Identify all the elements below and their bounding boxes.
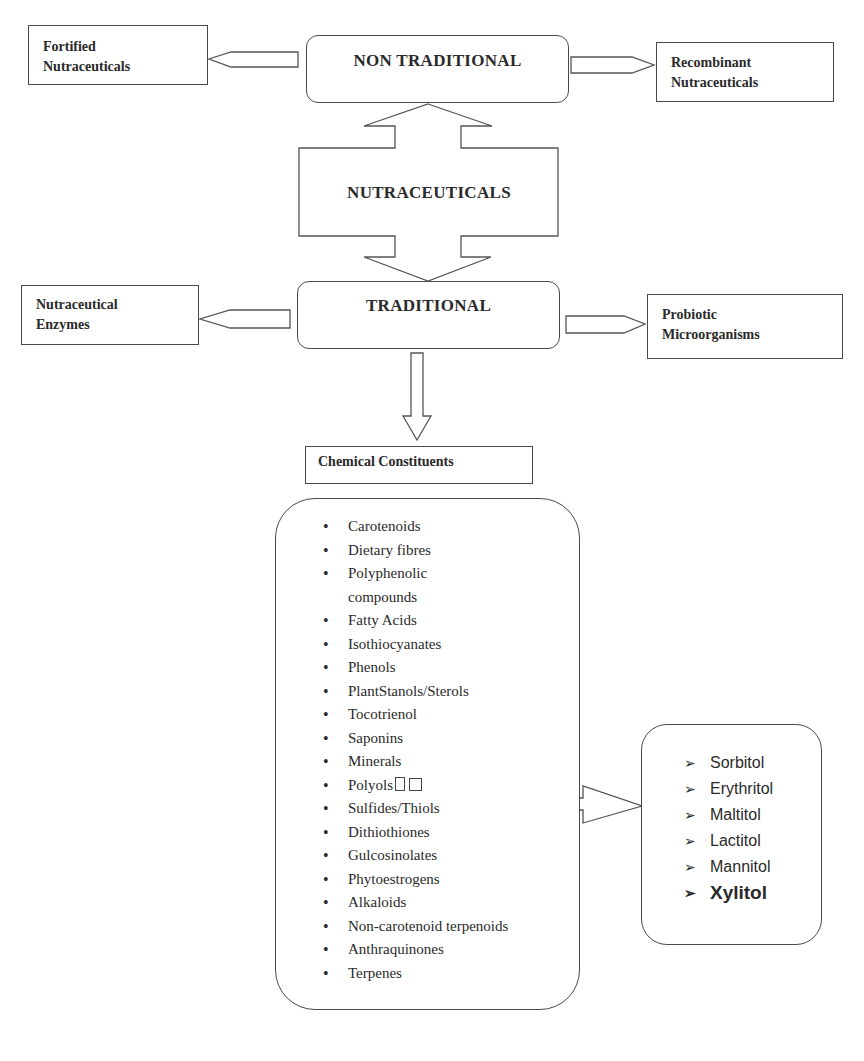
enzymes-line2: Enzymes	[36, 315, 198, 335]
nutraceutical-enzymes-box: Nutraceutical Enzymes	[21, 285, 199, 345]
nutraceuticals-label: NUTRACEUTICALS	[300, 183, 558, 203]
polyol-item: Maltitol	[680, 802, 820, 828]
polyol-item: Sorbitol	[680, 750, 820, 776]
probiotic-line1: Probiotic	[662, 305, 842, 325]
fortified-nutraceuticals-box: Fortified Nutraceuticals	[28, 25, 208, 85]
list-item: Tocotrienol	[316, 703, 586, 727]
chemical-constituents-title: Chemical Constituents	[306, 447, 532, 470]
placeholder-box-icon	[409, 778, 422, 791]
list-item: Isothiocyanates	[316, 633, 586, 657]
polyols-list: Sorbitol Erythritol Maltitol Lactitol Ma…	[680, 750, 820, 906]
traditional-label: TRADITIONAL	[298, 282, 559, 316]
arrow-to-fortified	[209, 52, 298, 67]
probiotic-line2: Microorganisms	[662, 325, 842, 345]
list-item: Fatty Acids	[316, 609, 586, 633]
fortified-line1: Fortified	[43, 37, 207, 57]
list-item: Sulfides/Thiols	[316, 797, 586, 821]
list-item: Terpenes	[316, 962, 586, 986]
recombinant-nutraceuticals-box: Recombinant Nutraceuticals	[656, 42, 834, 102]
non-traditional-label: NON TRADITIONAL	[307, 36, 568, 71]
list-item: PlantStanols/Sterols	[316, 680, 586, 704]
list-item: Alkaloids	[316, 891, 586, 915]
fortified-line2: Nutraceuticals	[43, 57, 207, 77]
non-traditional-box: NON TRADITIONAL	[306, 35, 569, 103]
recombinant-line2: Nutraceuticals	[671, 73, 833, 93]
list-item: Minerals	[316, 750, 586, 774]
list-item: Polyphenolic	[316, 562, 586, 586]
arrow-to-enzymes	[200, 310, 290, 328]
list-item: Saponins	[316, 727, 586, 751]
list-item: Carotenoids	[316, 515, 586, 539]
list-item-polyols: Polyols	[316, 774, 586, 798]
polyol-item: Erythritol	[680, 776, 820, 802]
list-item: Dithiothiones	[316, 821, 586, 845]
list-item: Anthraquinones	[316, 938, 586, 962]
arrow-to-probiotic	[566, 316, 645, 333]
list-item: Gulcosinolates	[316, 844, 586, 868]
list-item-continuation: compounds	[316, 586, 586, 610]
list-item: Phenols	[316, 656, 586, 680]
probiotic-microorganisms-box: Probiotic Microorganisms	[647, 294, 843, 359]
chemical-constituents-list: Carotenoids Dietary fibres Polyphenolic …	[316, 515, 586, 985]
polyol-item-highlighted: Xylitol	[680, 880, 820, 906]
list-item: Phytoestrogens	[316, 868, 586, 892]
recombinant-line1: Recombinant	[671, 53, 833, 73]
enzymes-line1: Nutraceutical	[36, 295, 198, 315]
polyol-item: Lactitol	[680, 828, 820, 854]
list-item: Non-carotenoid terpenoids	[316, 915, 586, 939]
list-item: Dietary fibres	[316, 539, 586, 563]
arrow-to-recombinant	[571, 57, 654, 73]
traditional-box: TRADITIONAL	[297, 281, 560, 349]
chemical-constituents-title-box: Chemical Constituents	[305, 446, 533, 484]
placeholder-box-icon	[395, 777, 405, 791]
polyol-item: Mannitol	[680, 854, 820, 880]
arrow-to-chemical	[403, 353, 431, 440]
polyols-label: Polyols	[348, 777, 393, 793]
